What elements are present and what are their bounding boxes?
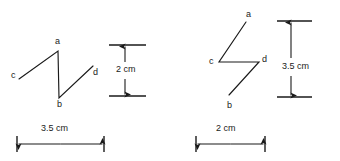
- right-horizontal-dimension: [196, 136, 265, 152]
- right-vertex-label-a: a: [246, 10, 251, 19]
- right-path-acdb: [219, 22, 259, 95]
- left-path-cabd: [19, 51, 93, 98]
- left-vertex-label-d: d: [93, 68, 98, 77]
- diagram-canvas: [0, 0, 340, 161]
- left-horizontal-dimension: [17, 136, 104, 152]
- left-vertex-label-c: c: [11, 71, 16, 80]
- left-vertex-label-a: a: [55, 37, 60, 46]
- geometry-diagram: a c b d 2 cm 3.5 cm a c b d 3.5 cm 2 cm: [0, 0, 340, 161]
- right-vertical-dimension-label: 3.5 cm: [282, 62, 309, 71]
- right-vertex-label-b: b: [227, 101, 232, 110]
- right-vertex-label-c: c: [209, 57, 214, 66]
- right-horizontal-dimension-label: 2 cm: [216, 124, 236, 133]
- right-vertex-label-d: d: [262, 55, 267, 64]
- left-vertex-label-b: b: [57, 100, 62, 109]
- left-horizontal-dimension-label: 3.5 cm: [41, 124, 68, 133]
- left-panel-figure: [19, 51, 93, 98]
- right-vertical-dimension: [277, 21, 312, 97]
- right-panel-figure: [219, 22, 259, 95]
- left-vertical-dimension-label: 2 cm: [116, 65, 136, 74]
